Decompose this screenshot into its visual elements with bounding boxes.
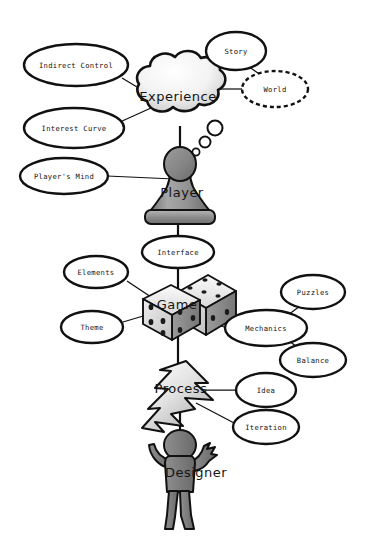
satellite-label-balance: Balance — [297, 356, 329, 365]
satellite-label-idea: Idea — [257, 386, 276, 395]
satellite-interface[interactable]: Interface — [142, 236, 214, 268]
satellite-label-theme: Theme — [80, 323, 103, 332]
satellite-iteration[interactable]: Iteration — [233, 410, 299, 444]
satellite-label-puzzles: Puzzles — [297, 288, 329, 297]
node-label-player: Player — [160, 185, 204, 200]
node-label-process: Process — [155, 381, 208, 396]
satellite-idea[interactable]: Idea — [236, 373, 296, 407]
chess-pawn-head — [164, 147, 196, 181]
cycle-arrow-shape — [142, 361, 213, 432]
diagram-canvas: Experience Player — [0, 0, 370, 539]
node-label-designer: Designer — [165, 465, 227, 480]
node-designer[interactable]: Designer — [149, 430, 227, 529]
thought-bubble-medium — [200, 137, 211, 148]
satellite-label-iteration: Iteration — [245, 423, 287, 432]
satellite-world[interactable]: World — [242, 71, 308, 107]
node-experience[interactable]: Experience — [137, 51, 225, 156]
satellite-mechanics[interactable]: Mechanics — [225, 310, 307, 346]
node-game[interactable]: Game — [143, 275, 236, 340]
satellite-puzzles[interactable]: Puzzles — [281, 275, 345, 309]
satellite-label-interface: Interface — [157, 248, 199, 257]
satellite-balance[interactable]: Balance — [280, 343, 346, 377]
satellite-story[interactable]: Story — [206, 32, 266, 70]
chess-pawn-base — [145, 210, 215, 224]
satellite-label-world: World — [263, 85, 286, 94]
satellite-label-indirect-control: Indirect Control — [39, 61, 113, 70]
node-label-game: Game — [157, 297, 198, 312]
satellite-elements[interactable]: Elements — [64, 256, 128, 288]
designer-leg-left — [165, 491, 178, 529]
connector-interest-curve-experience — [120, 108, 151, 122]
satellite-label-players-mind: Player's Mind — [34, 172, 94, 181]
node-player[interactable]: Player — [145, 147, 215, 224]
satellite-players-mind[interactable]: Player's Mind — [20, 158, 108, 194]
satellite-label-story: Story — [224, 47, 248, 56]
node-label-experience: Experience — [139, 89, 217, 104]
satellite-theme[interactable]: Theme — [61, 311, 123, 343]
satellite-label-interest-curve: Interest Curve — [42, 124, 107, 133]
connector-players-mind-player — [107, 176, 174, 179]
game-design-diagram: Experience Player — [0, 0, 370, 539]
satellite-label-elements: Elements — [77, 268, 114, 277]
thought-bubble-large — [208, 121, 223, 136]
designer-leg-right — [180, 491, 194, 529]
satellite-interest-curve[interactable]: Interest Curve — [24, 108, 124, 148]
connector-process-iteration — [196, 403, 236, 424]
node-process[interactable]: Process — [142, 361, 213, 432]
satellite-label-mechanics: Mechanics — [245, 324, 287, 333]
satellite-indirect-control[interactable]: Indirect Control — [24, 44, 128, 86]
